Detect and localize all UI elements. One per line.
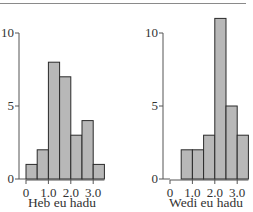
histogram-bar — [181, 150, 192, 179]
x-axis-title: Heb eu hadu — [28, 195, 96, 210]
histogram-figure: 051001.02.03.0Heb eu hadu 051001.02.03.0… — [0, 0, 253, 212]
histogram-bar — [60, 77, 71, 179]
histogram-bar — [37, 150, 48, 179]
histogram-bar — [226, 106, 237, 179]
x-axis-title: Wedi eu hadu — [169, 195, 243, 210]
histogram-bar — [71, 135, 82, 179]
y-tick-label: 0 — [8, 171, 15, 186]
chart-unseeded: 051001.02.03.0Heb eu hadu — [1, 25, 104, 210]
histogram-bar — [93, 164, 104, 179]
y-tick-label: 5 — [152, 98, 159, 113]
y-tick-label: 0 — [152, 171, 159, 186]
histogram-bar — [237, 135, 248, 179]
histogram-bar — [215, 18, 226, 179]
histogram-bar — [192, 150, 203, 179]
y-tick-label: 10 — [1, 25, 14, 40]
histogram-bar — [48, 62, 59, 179]
histogram-bar — [26, 164, 37, 179]
y-tick-label: 5 — [8, 98, 15, 113]
y-tick-label: 10 — [145, 25, 158, 40]
chart-seeded: 051001.02.03.0Wedi eu hadu — [145, 18, 248, 210]
histogram-bar — [204, 135, 215, 179]
histogram-bar — [82, 121, 93, 179]
